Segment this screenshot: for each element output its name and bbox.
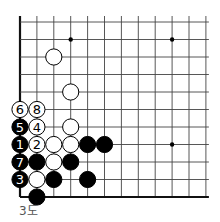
white-stone [46, 154, 62, 170]
black-stone [29, 189, 45, 205]
grid-lines [20, 16, 209, 197]
stone-disc [46, 154, 62, 170]
move-number: 2 [33, 137, 41, 152]
move-number: 3 [16, 172, 24, 187]
black-stone [80, 136, 96, 152]
move-number: 8 [33, 102, 41, 117]
stone-disc [63, 136, 79, 152]
black-stone [46, 171, 62, 187]
stone-disc [29, 154, 45, 170]
black-stone-5: 5 [12, 119, 28, 135]
star-point [170, 37, 174, 41]
white-stone-2: 2 [29, 136, 45, 152]
white-stone [63, 119, 79, 135]
black-stone [80, 171, 96, 187]
stone-disc [80, 171, 96, 187]
white-stone [46, 136, 62, 152]
move-number: 4 [33, 120, 41, 135]
stone-disc [63, 154, 79, 170]
move-number: 1 [16, 137, 24, 152]
black-stone-7: 7 [12, 154, 28, 170]
stone-disc [96, 136, 112, 152]
star-point [69, 37, 73, 41]
white-stone-6: 6 [12, 101, 28, 117]
move-number: 6 [16, 102, 24, 117]
move-number: 7 [16, 155, 24, 170]
go-board: 68541273 [0, 0, 220, 222]
white-stone-8: 8 [29, 101, 45, 117]
black-stone [29, 154, 45, 170]
stone-disc [46, 171, 62, 187]
stone-disc [63, 84, 79, 100]
white-stone-4: 4 [29, 119, 45, 135]
stone-disc [46, 49, 62, 65]
white-stone [63, 84, 79, 100]
black-stone-1: 1 [12, 136, 28, 152]
move-number: 5 [16, 120, 24, 135]
star-point [170, 142, 174, 146]
white-stone [46, 49, 62, 65]
stone-disc [29, 171, 45, 187]
white-stone [29, 171, 45, 187]
black-stone [96, 136, 112, 152]
black-stone-3: 3 [12, 171, 28, 187]
stone-disc [80, 136, 96, 152]
diagram-caption: 3도 [19, 204, 38, 218]
stone-disc [63, 119, 79, 135]
white-stone [63, 136, 79, 152]
black-stone [63, 154, 79, 170]
stone-disc [46, 136, 62, 152]
stone-disc [29, 189, 45, 205]
